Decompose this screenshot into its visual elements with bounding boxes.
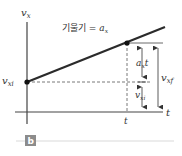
slope-label: 기울기 = ax	[62, 23, 109, 34]
intercept-point	[24, 79, 29, 84]
x-axis-label: t	[166, 107, 171, 118]
velocity-time-diagram: vx t 기울기 = ax vxi t axt vxi vxf b	[0, 0, 182, 156]
intercept-label: vxi	[2, 75, 14, 88]
time-mark-label: t	[124, 116, 128, 126]
velocity-line	[27, 27, 165, 82]
time-point	[124, 40, 129, 45]
y-axis-label: vx	[21, 7, 31, 20]
vxf-label: vxf	[161, 72, 175, 85]
panel-badge-label: b	[28, 136, 35, 146]
vxi-bracket-label: vxi	[135, 90, 145, 101]
